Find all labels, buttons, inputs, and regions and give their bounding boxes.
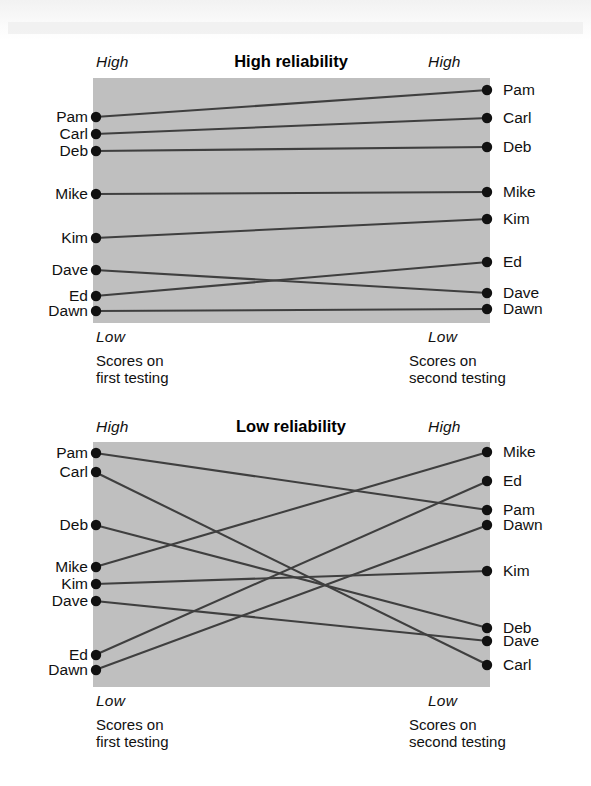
point-left-deb (91, 520, 101, 530)
connector-mike (95, 452, 488, 567)
label-left-dawn-low: Dawn (0, 662, 88, 677)
point-left-dawn (91, 665, 101, 675)
connector-ed (95, 481, 488, 655)
connector-kim (95, 571, 488, 584)
point-right-mike (482, 447, 492, 457)
label-left-dave-low: Dave (0, 593, 88, 608)
label-right-carl-low: Carl (503, 657, 531, 672)
label-left-mike-low: Mike (0, 559, 88, 574)
label-left-carl-low: Carl (0, 464, 88, 479)
label-left-deb-low: Deb (0, 517, 88, 532)
point-left-dave (91, 596, 101, 606)
label-right-mike-low: Mike (503, 444, 536, 459)
point-right-dave (482, 636, 492, 646)
label-right-pam-low: Pam (503, 502, 535, 517)
point-right-pam (482, 505, 492, 515)
point-left-ed (91, 650, 101, 660)
point-left-kim (91, 579, 101, 589)
point-right-kim (482, 566, 492, 576)
label-left-pam-low: Pam (0, 445, 88, 460)
label-left-ed-low: Ed (0, 647, 88, 662)
label-left-kim-low: Kim (0, 576, 88, 591)
point-left-mike (91, 562, 101, 572)
label-right-dawn-low: Dawn (503, 517, 543, 532)
label-right-dave-low: Dave (503, 633, 539, 648)
point-right-deb (482, 623, 492, 633)
label-right-ed-low: Ed (503, 473, 522, 488)
label-right-kim-low: Kim (503, 563, 530, 578)
point-left-carl (91, 467, 101, 477)
point-right-dawn (482, 520, 492, 530)
point-right-carl (482, 660, 492, 670)
connector-dave (95, 601, 488, 641)
point-left-pam (91, 448, 101, 458)
point-right-ed (482, 476, 492, 486)
connector-dawn (95, 525, 488, 670)
